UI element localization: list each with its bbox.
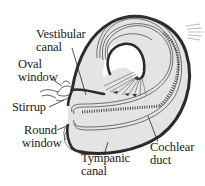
cochlea-diagram: Vestibular canal Oval window Stirrup Rou…	[0, 0, 205, 186]
label-cochlear-line1: Cochlear	[150, 141, 194, 153]
leader-stirrup	[49, 100, 64, 107]
label-vestibular-line1: Vestibular	[36, 28, 86, 40]
label-oval-window-line1: Oval	[18, 58, 42, 70]
auditory-nerve-bundle	[186, 24, 203, 40]
label-oval-window-line2: window	[18, 71, 58, 83]
label-cochlear-line2: duct	[150, 154, 171, 166]
label-round-window-line2: window	[22, 137, 62, 149]
label-tympanic-line2: canal	[81, 165, 107, 177]
label-tympanic-line1: Tympanic	[81, 152, 130, 164]
cochlea-outer-wall	[68, 17, 190, 154]
label-round-window-line1: Round	[24, 124, 57, 136]
leader-round-window	[57, 126, 67, 130]
label-stirrup: Stirrup	[12, 101, 46, 113]
label-vestibular-line2: canal	[36, 41, 62, 53]
